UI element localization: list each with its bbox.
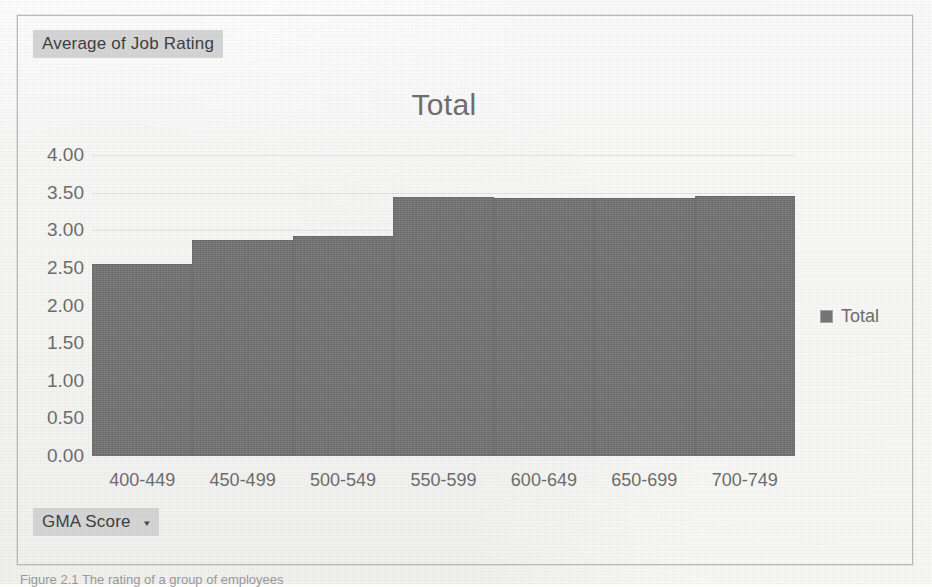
chart-title: Total <box>0 88 932 122</box>
legend-swatch-total-icon <box>820 310 833 323</box>
pivot-value-field-button[interactable]: Average of Job Rating <box>33 30 223 58</box>
chart-legend: Total <box>820 306 879 327</box>
y-axis-tick-label: 1.00 <box>47 370 84 392</box>
bar-series-total <box>92 155 795 456</box>
bar <box>92 264 192 456</box>
pivot-row-field-button[interactable]: GMA Score ▾ <box>33 508 159 536</box>
y-axis-tick-label: 2.50 <box>47 257 84 279</box>
legend-label-total: Total <box>841 306 879 327</box>
x-axis-tick-label: 550-599 <box>393 470 493 491</box>
y-axis-tick-label: 0.00 <box>47 445 84 467</box>
y-axis-tick-label: 3.50 <box>47 182 84 204</box>
x-axis-tick-label: 400-449 <box>92 470 192 491</box>
chart-title-text: Total <box>412 88 477 121</box>
y-axis-tick-label: 1.50 <box>47 332 84 354</box>
bar <box>695 196 795 456</box>
pivot-value-field-label: Average of Job Rating <box>42 34 214 54</box>
x-axis-tick-label: 700-749 <box>695 470 795 491</box>
bar <box>293 236 393 456</box>
pivot-row-field-label: GMA Score <box>42 512 131 532</box>
chevron-down-icon[interactable]: ▾ <box>144 519 151 528</box>
y-axis-tick-label: 4.00 <box>47 144 84 166</box>
y-axis-tick-label: 2.00 <box>47 295 84 317</box>
y-axis-tick-label: 0.50 <box>47 407 84 429</box>
bar <box>192 240 292 456</box>
y-axis: 4.003.503.002.502.001.501.000.500.00 <box>22 155 84 456</box>
bar <box>494 198 594 456</box>
figure-caption: Figure 2.1 The rating of a group of empl… <box>20 572 284 587</box>
x-axis-tick-label: 650-699 <box>594 470 694 491</box>
y-axis-tick-label: 3.00 <box>47 219 84 241</box>
x-axis-tick-label: 500-549 <box>293 470 393 491</box>
x-axis-tick-label: 600-649 <box>494 470 594 491</box>
x-axis: 400-449450-499500-549550-599600-649650-6… <box>92 470 795 491</box>
bar <box>594 198 694 456</box>
bar <box>393 197 493 456</box>
x-axis-tick-label: 450-499 <box>192 470 292 491</box>
plot-area <box>92 155 795 456</box>
figure-caption-text: Figure 2.1 The rating of a group of empl… <box>20 572 284 587</box>
